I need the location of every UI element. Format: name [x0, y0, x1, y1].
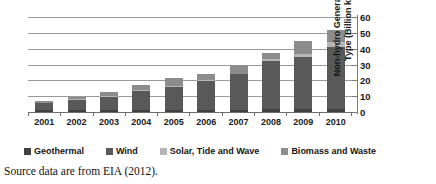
- y-axis-labels: 0102030405060: [360, 17, 380, 112]
- y-axis-tick-label: 40: [360, 43, 380, 54]
- y-axis-title-line-2: Type (Billion kWh): [343, 0, 354, 80]
- stacked-bar[interactable]: [132, 85, 150, 112]
- x-axis-tick: [189, 112, 190, 116]
- legend-swatch-icon: [160, 148, 167, 155]
- stacked-bar[interactable]: [230, 65, 248, 112]
- bar-segment: [165, 78, 183, 86]
- x-axis-tick: [286, 112, 287, 116]
- y-axis-tick-label: 10: [360, 91, 380, 102]
- stacked-bar[interactable]: [294, 41, 312, 112]
- x-axis-tick: [254, 112, 255, 116]
- figure-caption: Source data are from EIA (2012).: [4, 165, 158, 177]
- bar-segment: [165, 87, 183, 110]
- stacked-bar[interactable]: [197, 74, 215, 112]
- bar-slot: [255, 17, 286, 112]
- bar-segment: [294, 57, 312, 110]
- y-axis-title: Non-hydro Generation by Type (Billion kW…: [332, 0, 360, 80]
- x-axis-tick: [157, 112, 158, 116]
- legend-swatch-icon: [24, 148, 31, 155]
- bar-group: [28, 17, 352, 112]
- legend-swatch-icon: [281, 148, 288, 155]
- bar-segment: [262, 61, 280, 110]
- bar-segment: [230, 74, 248, 109]
- x-axis-label: 2004: [126, 117, 157, 127]
- x-axis-label: 2001: [29, 117, 60, 127]
- plot-area: [28, 17, 352, 112]
- bar-segment: [294, 41, 312, 53]
- bar-slot: [191, 17, 222, 112]
- x-axis-label: 2005: [158, 117, 189, 127]
- legend-item[interactable]: Solar, Tide and Wave: [160, 146, 260, 156]
- bar-slot: [29, 17, 60, 112]
- legend-swatch-icon: [106, 148, 113, 155]
- x-axis-tick: [319, 112, 320, 116]
- x-axis-label: 2008: [255, 117, 286, 127]
- bar-segment: [68, 100, 86, 110]
- bar-slot: [61, 17, 92, 112]
- legend-label: Wind: [116, 146, 138, 156]
- stacked-bar[interactable]: [35, 101, 53, 112]
- y-axis-tick: [352, 112, 358, 113]
- legend-label: Geothermal: [34, 146, 84, 156]
- legend-item[interactable]: Geothermal: [24, 146, 84, 156]
- chart-legend: GeothermalWindSolar, Tide and WaveBiomas…: [0, 143, 400, 159]
- stacked-bar[interactable]: [68, 97, 86, 112]
- x-axis-tick: [125, 112, 126, 116]
- y-axis-tick-label: 60: [360, 12, 380, 23]
- y-axis-tick-label: 20: [360, 75, 380, 86]
- x-axis-tick: [222, 112, 223, 116]
- x-axis-label: 2006: [191, 117, 222, 127]
- y-axis-title-line-1: Non-hydro Generation by: [332, 0, 343, 80]
- stacked-bar[interactable]: [165, 78, 183, 112]
- bar-slot: [158, 17, 189, 112]
- bar-segment: [132, 91, 150, 110]
- x-axis-label: 2007: [223, 117, 254, 127]
- x-axis-label: 2002: [61, 117, 92, 127]
- stacked-bar[interactable]: [100, 92, 118, 112]
- y-axis-tick-label: 50: [360, 27, 380, 38]
- legend-label: Solar, Tide and Wave: [170, 146, 260, 156]
- bar-segment: [35, 103, 53, 110]
- chart-area: 2001200220032004200520062007200820092010…: [0, 0, 436, 140]
- x-axis-label: 2003: [93, 117, 124, 127]
- y-axis-tick: [352, 80, 358, 81]
- legend-item[interactable]: Biomass and Waste: [281, 146, 376, 156]
- bar-segment: [100, 97, 118, 110]
- y-axis-tick-label: 0: [360, 107, 380, 118]
- y-axis-tick-label: 30: [360, 59, 380, 70]
- stacked-bar[interactable]: [262, 53, 280, 112]
- bar-slot: [93, 17, 124, 112]
- legend-label: Biomass and Waste: [291, 146, 376, 156]
- bar-segment: [197, 81, 215, 110]
- x-axis-ticks: [28, 112, 352, 116]
- legend-item[interactable]: Wind: [106, 146, 138, 156]
- x-axis-label: 2010: [320, 117, 351, 127]
- x-axis-label: 2009: [288, 117, 319, 127]
- bar-slot: [288, 17, 319, 112]
- figure-container: 2001200220032004200520062007200820092010…: [0, 0, 436, 184]
- bar-slot: [126, 17, 157, 112]
- x-axis-tick: [93, 112, 94, 116]
- y-axis-tick: [352, 96, 358, 97]
- bar-segment: [230, 65, 248, 74]
- x-axis-labels: 2001200220032004200520062007200820092010: [28, 117, 352, 127]
- x-axis-tick: [60, 112, 61, 116]
- bar-slot: [223, 17, 254, 112]
- x-axis-tick: [28, 112, 29, 116]
